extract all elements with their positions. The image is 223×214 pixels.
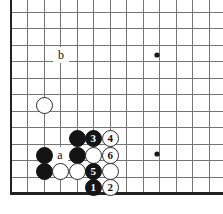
black-stone-b9 (36, 147, 53, 164)
stone-move-number: 2 (107, 181, 112, 192)
black-stone-move-3: 3 (85, 130, 102, 147)
white-stone-f10 (102, 163, 119, 180)
stone-move-number: 1 (90, 181, 95, 192)
white-stone-c10 (52, 163, 69, 180)
point-label-a: a (52, 147, 68, 163)
stone-move-number: 6 (107, 149, 112, 160)
black-stone-move-1: 1 (85, 179, 102, 196)
white-stone-move-2: 2 (102, 179, 119, 196)
white-stone-upper-left (36, 97, 53, 114)
white-stone-e9 (85, 147, 102, 164)
stone-layer: ba346512 (0, 0, 223, 214)
stone-move-number: 4 (107, 132, 112, 143)
white-stone-move-4: 4 (102, 130, 119, 147)
white-stone-move-6: 6 (102, 147, 119, 164)
stone-move-number: 3 (90, 132, 95, 143)
point-label-b: b (53, 47, 69, 63)
black-stone-b10 (36, 163, 53, 180)
black-stone-d8 (69, 130, 86, 147)
black-stone-move-5: 5 (85, 163, 102, 180)
white-stone-d10 (69, 163, 86, 180)
black-stone-d9 (69, 147, 86, 164)
go-diagram-figure: ba346512 (0, 0, 223, 214)
stone-move-number: 5 (90, 165, 95, 176)
